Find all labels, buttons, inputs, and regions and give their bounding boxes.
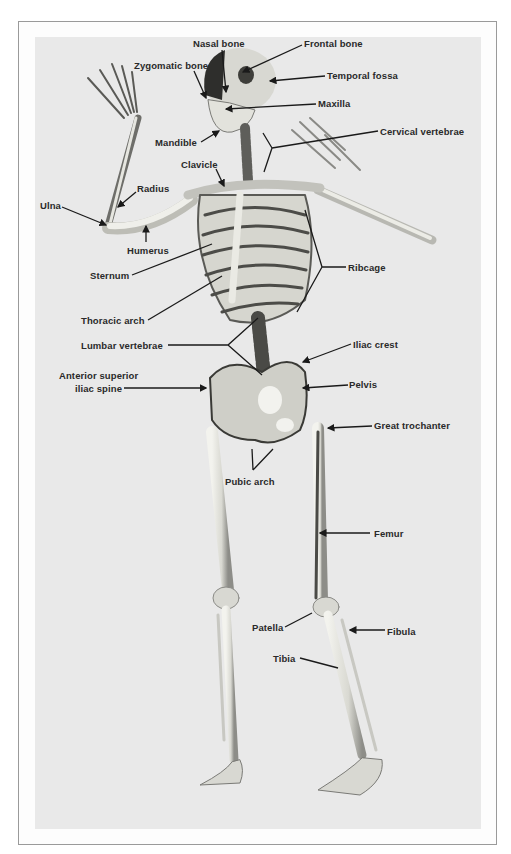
leader-radius	[118, 192, 136, 207]
label-cervical-vertebrae: Cervical vertebrae	[380, 126, 464, 137]
leader-clavicle	[216, 169, 224, 186]
label-patella: Patella	[252, 622, 283, 633]
label-anterior-superior-iliac-spine-line2: iliac spine	[75, 383, 122, 394]
leader-cervical-vertebrae	[263, 131, 378, 172]
label-anterior-superior-iliac-spine-line1: Anterior superior	[59, 370, 138, 381]
label-clavicle: Clavicle	[181, 159, 218, 170]
label-femur: Femur	[374, 528, 404, 539]
label-tibia: Tibia	[273, 653, 296, 664]
label-radius: Radius	[137, 183, 169, 194]
label-iliac-crest: Iliac crest	[353, 339, 398, 350]
label-ribcage: Ribcage	[348, 262, 386, 273]
label-sternum: Sternum	[90, 270, 129, 281]
label-temporal-fossa: Temporal fossa	[327, 70, 398, 81]
label-frontal-bone: Frontal bone	[304, 38, 363, 49]
leader-nasal-bone	[222, 50, 226, 92]
label-great-trochanter: Great trochanter	[374, 420, 450, 431]
label-thoracic-arch: Thoracic arch	[81, 315, 145, 326]
label-pelvis: Pelvis	[349, 379, 377, 390]
leader-zygomatic-bone	[194, 71, 206, 98]
leader-lumbar-vertebrae	[168, 318, 262, 375]
leader-iliac-crest	[303, 344, 351, 362]
leader-mandible	[201, 131, 219, 142]
label-zygomatic-bone: Zygomatic bone	[134, 60, 208, 71]
leader-pubic-arch	[252, 449, 273, 470]
label-lumbar-vertebrae: Lumbar vertebrae	[81, 340, 163, 351]
label-nasal-bone: Nasal bone	[193, 38, 245, 49]
label-pubic-arch: Pubic arch	[225, 476, 275, 487]
leader-tibia	[300, 658, 338, 668]
leader-frontal-bone	[243, 45, 302, 72]
label-fibula: Fibula	[387, 626, 416, 637]
label-ulna: Ulna	[40, 200, 61, 211]
label-mandible: Mandible	[155, 137, 197, 148]
leader-thoracic-arch	[148, 276, 222, 320]
label-maxilla: Maxilla	[318, 98, 350, 109]
leader-pelvis	[303, 385, 348, 388]
leader-maxilla	[226, 104, 316, 109]
leader-patella	[285, 613, 312, 627]
leader-temporal-fossa	[270, 76, 325, 81]
label-humerus: Humerus	[127, 245, 169, 256]
leader-ulna	[62, 207, 106, 225]
leader-great-trochanter	[328, 426, 372, 428]
leader-ribcage	[297, 210, 346, 312]
